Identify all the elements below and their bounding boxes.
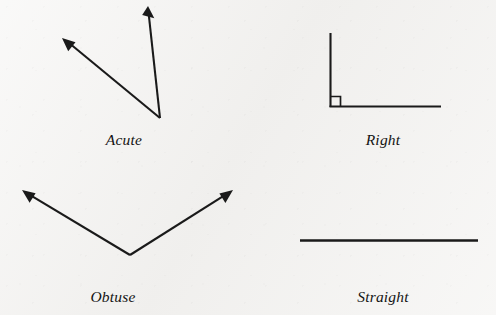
acute-upper-left-arrowhead bbox=[62, 38, 76, 51]
label-straight: Straight bbox=[357, 288, 409, 306]
angles-figure-page: Acute Right Obtuse Straight bbox=[0, 0, 496, 315]
acute-upper-right-ray bbox=[149, 14, 160, 118]
obtuse-upper-right-arrowhead bbox=[219, 190, 233, 203]
angles-diagram bbox=[0, 0, 496, 315]
obtuse-upper-left-arrowhead bbox=[22, 190, 36, 203]
acute-upper-right-arrowhead bbox=[142, 6, 154, 18]
label-acute: Acute bbox=[106, 131, 142, 149]
obtuse-upper-left-ray bbox=[29, 194, 130, 255]
figure-acute bbox=[62, 6, 160, 118]
figure-right bbox=[330, 33, 442, 107]
obtuse-upper-right-ray bbox=[130, 194, 226, 255]
label-obtuse: Obtuse bbox=[90, 288, 135, 306]
acute-upper-left-ray bbox=[69, 43, 161, 119]
right-angle-square-marker bbox=[331, 97, 341, 107]
label-right: Right bbox=[366, 131, 401, 149]
figure-obtuse bbox=[22, 190, 233, 255]
